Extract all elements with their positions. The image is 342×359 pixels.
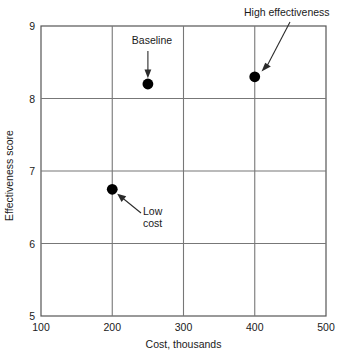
data-point-baseline[interactable]: [143, 79, 154, 90]
scatter-chart-figure: 9 8 7 6 5 100 200 300 400 500 Cost, thou…: [0, 0, 342, 359]
xtick-label-100: 100: [32, 322, 50, 333]
xtick-label-200: 200: [103, 322, 121, 333]
xtick-label-400: 400: [246, 322, 264, 333]
xtick-label-300: 300: [175, 322, 193, 333]
ytick-label-7: 7: [22, 166, 35, 177]
ytick-label-5: 5: [22, 311, 35, 322]
annotation-baseline: Baseline: [132, 34, 172, 46]
annotation-high-effectiveness: High effectiveness: [244, 6, 330, 18]
plot-canvas: [0, 0, 342, 359]
ytick-label-8: 8: [22, 93, 35, 104]
x-axis-label: Cost, thousands: [146, 339, 222, 350]
ytick-label-6: 6: [22, 238, 35, 249]
annotation-low-cost-line2: cost: [143, 217, 162, 229]
ytick-label-9: 9: [22, 21, 35, 32]
y-axis-label: Effectiveness score: [4, 130, 15, 221]
data-point-low-cost[interactable]: [107, 184, 118, 195]
annotation-low-cost-line1: Low: [143, 205, 162, 217]
data-point-high-effectiveness[interactable]: [249, 71, 260, 82]
xtick-label-500: 500: [317, 322, 335, 333]
